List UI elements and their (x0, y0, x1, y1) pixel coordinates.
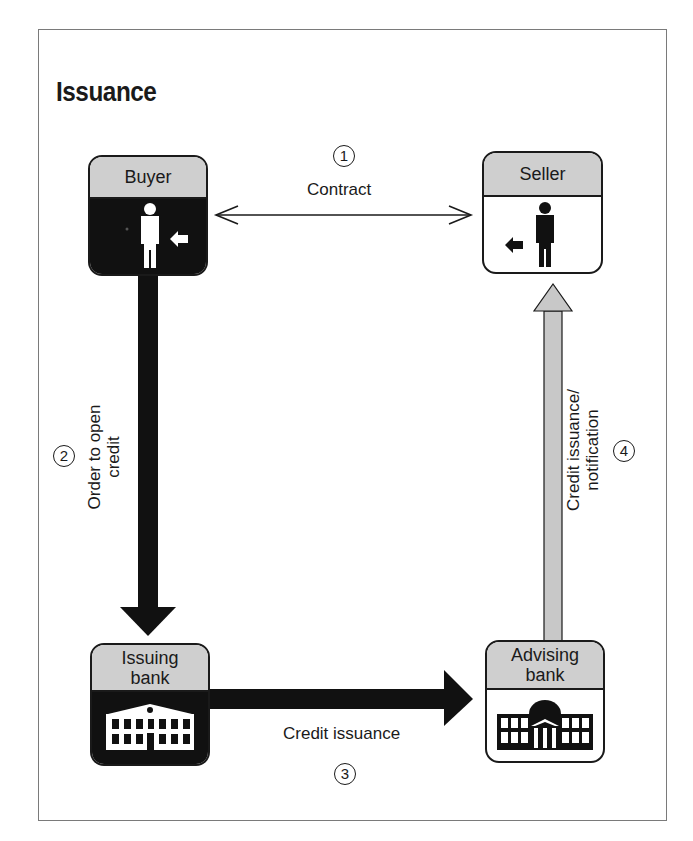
buyer-node: Buyer (88, 155, 208, 276)
domed-bank-icon (487, 690, 603, 761)
advising-bank-body (487, 690, 603, 761)
buyer-header: Buyer (90, 157, 206, 199)
step-4-badge: 4 (613, 440, 635, 462)
order-label-line2: credit (104, 397, 123, 517)
step-1-badge: 1 (333, 145, 355, 167)
issuing-bank-header: Issuing bank (92, 645, 208, 692)
issuing-bank-body (92, 692, 208, 764)
buyer-body (90, 199, 206, 274)
advising-bank-label-line2: bank (525, 665, 564, 685)
seller-header: Seller (484, 153, 601, 197)
notification-label-line2: notification (583, 380, 602, 520)
seller-node: Seller (482, 151, 603, 274)
issuing-bank-label-line1: Issuing (121, 648, 178, 668)
advising-bank-label-line1: Advising (511, 645, 579, 665)
bank-building-icon (92, 692, 208, 764)
seller-label: Seller (519, 164, 565, 184)
step-2-badge: 2 (53, 445, 75, 467)
step-3-badge: 3 (334, 763, 356, 785)
order-label-line1: Order to open (85, 397, 104, 517)
person-icon (484, 197, 601, 272)
issuing-bank-node: Issuing bank (90, 643, 210, 766)
credit-issuance-notification-label: Credit issuance/ notification (564, 380, 604, 520)
contract-arrow (216, 206, 471, 224)
notification-label-line1: Credit issuance/ (564, 380, 583, 520)
advising-bank-node: Advising bank (485, 640, 605, 763)
seller-body (484, 197, 601, 272)
credit-issuance-arrow (205, 670, 473, 726)
credit-issuance-label: Credit issuance (283, 724, 400, 744)
issuing-bank-label-line2: bank (130, 668, 169, 688)
order-to-open-credit-label: Order to open credit (85, 397, 125, 517)
contract-label: Contract (307, 180, 371, 200)
arrow-left-icon (170, 231, 190, 247)
buyer-label: Buyer (124, 167, 171, 187)
advising-bank-header: Advising bank (487, 642, 603, 690)
order-to-open-credit-arrow (120, 270, 176, 636)
arrow-left-icon (505, 237, 525, 253)
